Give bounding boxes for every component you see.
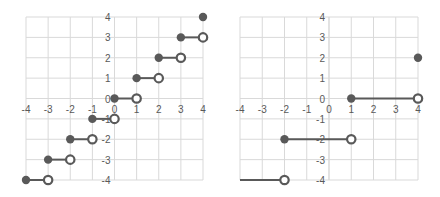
open-endpoint — [199, 33, 207, 41]
x-tick-label: 1 — [134, 104, 140, 115]
closed-endpoint — [44, 155, 52, 163]
x-tick-label: -1 — [302, 104, 311, 115]
x-tick-label: -3 — [44, 104, 53, 115]
isolated-point — [199, 13, 207, 21]
open-endpoint — [280, 176, 288, 184]
y-tick-label: -4 — [102, 175, 111, 186]
y-tick-label: -3 — [102, 155, 111, 166]
y-tick-label: -3 — [316, 155, 325, 166]
open-endpoint — [44, 176, 52, 184]
x-tick-label: 2 — [156, 104, 162, 115]
isolated-point — [414, 54, 422, 62]
y-tick-label: 4 — [105, 12, 111, 23]
open-endpoint — [414, 94, 422, 102]
x-tick-label: 3 — [393, 104, 399, 115]
x-tick-label: 0 — [112, 104, 118, 115]
y-tick-label: 2 — [319, 53, 325, 64]
y-tick-label: 3 — [319, 32, 325, 43]
y-tick-label: 1 — [105, 73, 111, 84]
y-tick-label: 0 — [319, 94, 325, 105]
x-tick-label: -2 — [280, 104, 289, 115]
x-tick-label: -2 — [66, 104, 75, 115]
closed-endpoint — [155, 54, 163, 62]
closed-endpoint — [280, 135, 288, 143]
x-tick-label: 4 — [415, 104, 421, 115]
x-tick-label: 0 — [326, 104, 332, 115]
open-endpoint — [66, 155, 74, 163]
closed-endpoint — [22, 176, 30, 184]
closed-endpoint — [66, 135, 74, 143]
y-tick-label: 2 — [105, 53, 111, 64]
x-tick-label: 4 — [200, 104, 206, 115]
y-tick-label: 0 — [105, 94, 111, 105]
open-endpoint — [88, 135, 96, 143]
x-tick-label: -3 — [258, 104, 267, 115]
y-tick-label: -2 — [102, 134, 111, 145]
open-endpoint — [132, 94, 140, 102]
step-function-charts: -4-3-2-101234-4-3-2-101234-4-3-2-101234-… — [0, 0, 440, 197]
y-tick-label: 1 — [319, 73, 325, 84]
closed-endpoint — [177, 33, 185, 41]
y-tick-label: -4 — [316, 175, 325, 186]
x-tick-label: 2 — [371, 104, 377, 115]
y-tick-label: 3 — [105, 32, 111, 43]
y-tick-label: -1 — [316, 114, 325, 125]
y-tick-label: 4 — [319, 12, 325, 23]
chart-right-plot: -4-3-2-101234-4-3-2-101234 — [236, 12, 423, 186]
open-endpoint — [177, 54, 185, 62]
closed-endpoint — [132, 74, 140, 82]
x-tick-label: 1 — [348, 104, 354, 115]
open-endpoint — [110, 115, 118, 123]
x-tick-label: -4 — [236, 104, 245, 115]
x-tick-label: 3 — [178, 104, 184, 115]
closed-endpoint — [88, 115, 96, 123]
x-tick-label: -4 — [22, 104, 31, 115]
closed-endpoint — [110, 94, 118, 102]
open-endpoint — [347, 135, 355, 143]
open-endpoint — [155, 74, 163, 82]
x-tick-label: -1 — [88, 104, 97, 115]
closed-endpoint — [347, 94, 355, 102]
chart-left-plot: -4-3-2-101234-4-3-2-101234 — [22, 12, 208, 186]
